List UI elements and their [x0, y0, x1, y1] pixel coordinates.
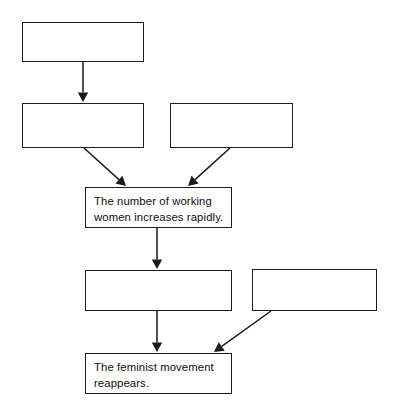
flow-node-1[interactable] [22, 22, 144, 62]
edge-e2-line [84, 148, 119, 180]
edge-e6-arrowhead [214, 342, 225, 352]
edge-e4-arrowhead [152, 260, 162, 270]
edge-e3-line [195, 148, 230, 180]
flow-node-4-label: The number of working women increases ra… [86, 188, 231, 225]
flow-node-7-feminist-movement[interactable]: The feminist movement reappears. [85, 353, 232, 394]
flow-node-5[interactable] [85, 270, 232, 311]
edge-e5-arrowhead [152, 343, 162, 353]
flow-node-3[interactable] [170, 103, 293, 148]
flow-node-4-working-women[interactable]: The number of working women increases ra… [85, 187, 232, 228]
edge-e1-arrowhead [78, 93, 88, 103]
edge-e6-line [222, 311, 271, 346]
flowchart-canvas: The number of working women increases ra… [0, 0, 395, 419]
flow-node-6[interactable] [252, 269, 377, 311]
flow-node-7-label: The feminist movement reappears. [86, 354, 231, 391]
flow-node-2[interactable] [22, 103, 144, 148]
